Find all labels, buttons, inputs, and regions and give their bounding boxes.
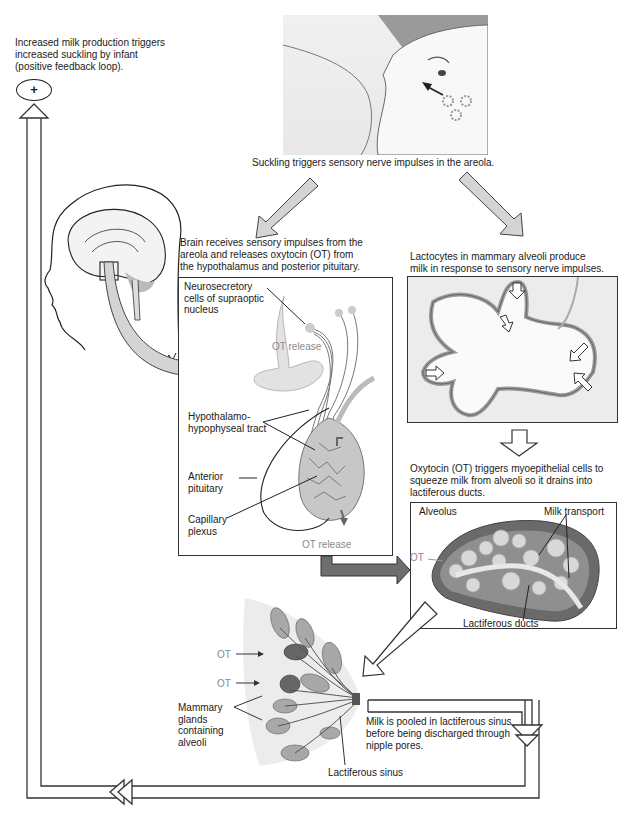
label-mammary-glands: Mammary glands containing alveoli <box>178 702 224 748</box>
label-ot-breast-2: OT <box>217 678 231 690</box>
breast-leader-lines <box>0 0 633 816</box>
label-lactiferous-sinus: Lactiferous sinus <box>328 767 403 779</box>
pooling-caption: Milk is pooled in lactiferous sinus befo… <box>366 716 536 752</box>
label-ot-breast-1: OT <box>217 649 231 661</box>
